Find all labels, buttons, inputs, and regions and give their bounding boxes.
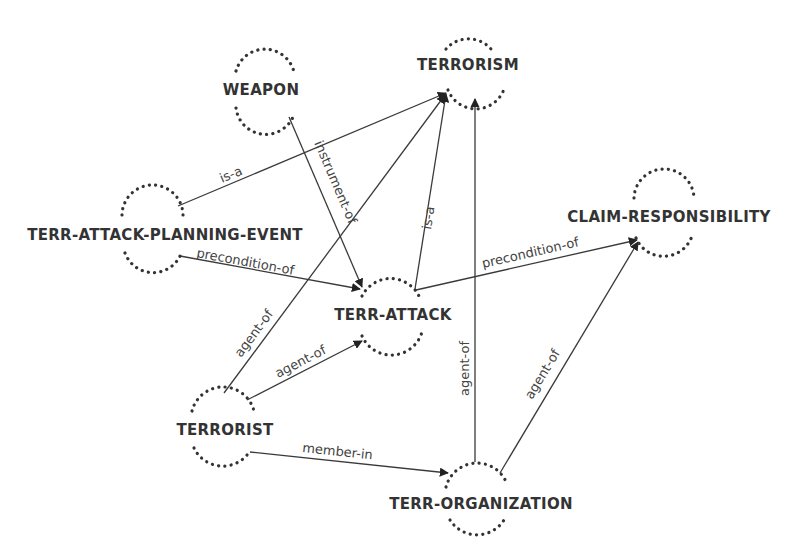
dotted-circle-top: [362, 279, 419, 296]
dotted-circle-bottom: [636, 236, 692, 256]
node-terr-organization[interactable]: TERR-ORGANIZATION: [389, 463, 573, 535]
edge-agent-of-org-claim: [500, 242, 638, 473]
dotted-circle-bottom: [236, 108, 293, 134]
node-label: CLAIM-RESPONSIBILITY: [567, 208, 771, 226]
edge-label-instrument-of: instrument-of: [311, 138, 360, 226]
edge-label-is-a-1: is-a: [217, 163, 244, 186]
edge-label-precondition-of-1: precondition-of: [195, 245, 295, 278]
edges: [178, 93, 638, 473]
dotted-circle-bottom: [448, 86, 505, 109]
dotted-circle-top: [634, 169, 694, 200]
node-label: TERRORISM: [417, 56, 519, 74]
node-label: TERR-ORGANIZATION: [389, 495, 573, 513]
dotted-circle-top: [236, 49, 294, 72]
edge-label-agent-of-2: agent-of: [273, 342, 329, 381]
node-label: TERRORIST: [176, 421, 274, 439]
dotted-circle-top: [446, 39, 491, 49]
edge-labels: is-a instrument-of precondition-of is-a …: [195, 138, 580, 462]
edge-is-a-attack-terrorism: [415, 94, 446, 289]
edge-label-precondition-of-2: precondition-of: [480, 234, 580, 271]
node-label: TERR-ATTACK: [334, 306, 453, 324]
node-terr-attack[interactable]: TERR-ATTACK: [334, 279, 453, 356]
edge-is-a-planning-terrorism: [178, 93, 446, 206]
edge-label-is-a-2: is-a: [419, 205, 437, 230]
dotted-circle-bottom: [194, 448, 250, 466]
dotted-circle-bottom: [362, 332, 422, 355]
concept-diagram: is-a instrument-of precondition-of is-a …: [0, 0, 791, 558]
node-claim-responsibility[interactable]: CLAIM-RESPONSIBILITY: [567, 169, 771, 256]
edge-label-agent-of-3: agent-of: [457, 341, 472, 396]
dotted-circle-bottom: [450, 520, 504, 535]
dotted-circle-top: [192, 387, 254, 411]
node-weapon[interactable]: WEAPON: [223, 49, 300, 134]
dotted-circle-top: [122, 185, 183, 216]
edge-agent-of-terrorist-attack: [247, 341, 362, 400]
dotted-circle-top: [446, 463, 507, 487]
dotted-circle-bottom: [125, 253, 180, 273]
node-terrorist[interactable]: TERRORIST: [176, 387, 274, 466]
edge-label-agent-of-4: agent-of: [522, 346, 563, 401]
node-label: TERR-ATTACK-PLANNING-EVENT: [27, 226, 303, 244]
node-label: WEAPON: [223, 81, 300, 99]
